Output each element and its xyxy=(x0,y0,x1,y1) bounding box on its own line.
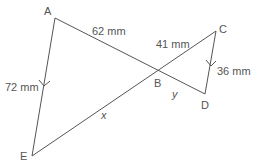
vertex-label-d: D xyxy=(201,99,209,111)
variable-label-x: x xyxy=(100,109,107,121)
vertex-label-a: A xyxy=(44,5,52,17)
length-label-bc: 41 mm xyxy=(156,38,190,50)
similar-triangles-diagram: A B C D E 62 mm 72 mm 41 mm 36 mm y x xyxy=(0,0,257,165)
vertex-label-b: B xyxy=(154,77,161,89)
length-label-ab: 62 mm xyxy=(92,25,126,37)
segment-ab xyxy=(55,18,205,94)
vertex-label-e: E xyxy=(20,150,27,162)
vertex-label-c: C xyxy=(219,23,227,35)
length-label-cd: 36 mm xyxy=(217,65,251,77)
variable-label-y: y xyxy=(171,88,179,100)
length-label-ae: 72 mm xyxy=(5,81,39,93)
